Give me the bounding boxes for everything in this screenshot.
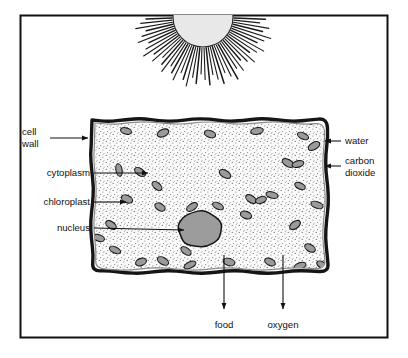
plant-cell-photosynthesis-diagram: cell wall cytoplasm chloroplast nucleus …	[0, 0, 408, 358]
label-cell-wall-line1: cell	[22, 126, 36, 137]
diagram-figure: cell wall cytoplasm chloroplast nucleus …	[0, 0, 408, 358]
label-food: food	[215, 319, 234, 330]
label-chloroplast: chloroplast	[44, 196, 91, 207]
nucleus	[178, 211, 221, 247]
label-carbon-dioxide-line1: carbon	[345, 155, 374, 166]
sun-ray	[146, 18, 172, 19]
label-cytoplasm: cytoplasm	[47, 167, 90, 178]
label-cell-wall-line2: wall	[21, 138, 39, 149]
nucleus-shape	[178, 211, 221, 247]
label-oxygen: oxygen	[268, 319, 299, 330]
label-carbon-dioxide-line2: dioxide	[345, 167, 375, 178]
plant-cell	[91, 113, 329, 274]
label-nucleus: nucleus	[57, 222, 90, 233]
label-water: water	[344, 135, 369, 146]
